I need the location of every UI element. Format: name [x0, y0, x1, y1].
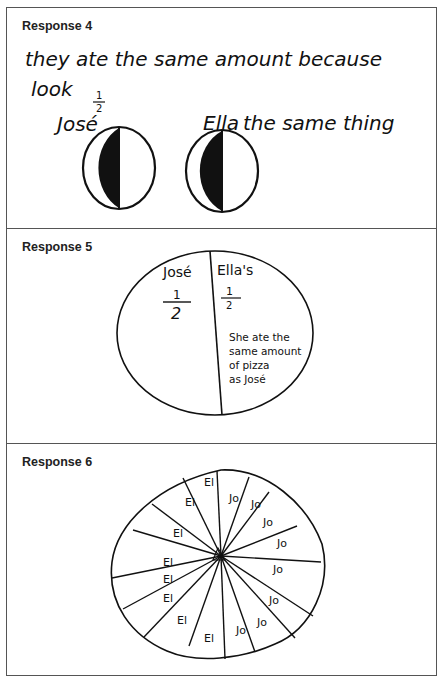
r5-explanation-1: She ate the — [229, 331, 290, 343]
jose-half-circle — [83, 127, 155, 209]
responses-figure: Response 4 they ate the same amount beca… — [6, 7, 437, 676]
wedge-label-jo: Jo — [250, 498, 261, 511]
wedge-label-el: El — [204, 632, 214, 645]
response-6-panel: Response 6 — [7, 444, 436, 675]
r5-left-num: 1 — [173, 288, 181, 302]
r4-jose-fraction-num: 1 — [96, 90, 102, 101]
r5-left-den: 2 — [171, 304, 181, 323]
r4-trailing-text: the same thing — [243, 111, 394, 135]
wedge-label-jo: Jo — [268, 594, 279, 607]
wedge-label-jo: Jo — [228, 492, 239, 505]
wedge-label-el: El — [204, 476, 214, 489]
r4-text-line2: look — [31, 77, 74, 101]
response-4-panel: Response 4 they ate the same amount beca… — [7, 8, 436, 229]
r4-jose-fraction-den: 2 — [96, 103, 102, 114]
wedge-lines — [112, 471, 321, 659]
wedge-label-jo: Jo — [262, 516, 273, 529]
wedge-label-jo: Jo — [256, 616, 267, 629]
response-5-panel: Response 5 José 1 2 Ella's 1 2 She ate t… — [7, 229, 436, 444]
wedge-label-jo: Jo — [276, 537, 287, 550]
r4-text-line1: they ate the same amount because — [25, 47, 382, 71]
r5-right-num: 1 — [226, 285, 233, 298]
wedge-label-jo: Jo — [235, 624, 246, 637]
r5-right-name: Ella's — [217, 262, 253, 278]
r4-jose-label: José — [53, 112, 98, 136]
r5-right-den: 2 — [226, 300, 232, 311]
wedge-label-el: El — [163, 556, 173, 569]
response-6-drawing: El El El El El El El El Jo Jo Jo Jo Jo J… — [7, 444, 438, 675]
ella-half-circle — [186, 130, 258, 212]
response-4-drawing: they ate the same amount because look Jo… — [7, 8, 438, 229]
r5-explanation-2: same amount — [229, 345, 301, 357]
wedge-label-el: El — [163, 592, 173, 605]
wedge-label-el: El — [177, 614, 187, 627]
r5-explanation-4: as José — [229, 373, 266, 385]
wedge-label-el: El — [173, 527, 183, 540]
response-5-drawing: José 1 2 Ella's 1 2 She ate the same amo… — [7, 229, 438, 444]
r5-left-name: José — [162, 264, 192, 280]
wedge-label-jo: Jo — [272, 563, 283, 576]
r5-explanation-3: of pizza — [229, 359, 270, 371]
wedge-label-el: El — [185, 496, 195, 509]
wedge-label-el: El — [163, 573, 173, 586]
